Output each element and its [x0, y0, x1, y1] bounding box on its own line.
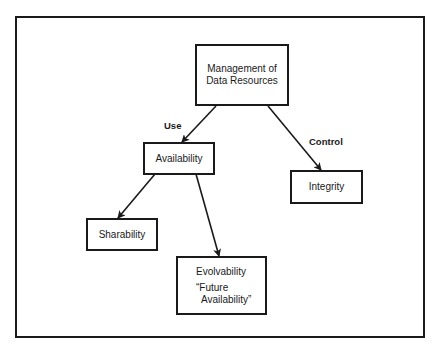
- node-label: Evolvability: [196, 266, 246, 278]
- node-sharability: Sharability: [86, 218, 158, 251]
- edge-label-use: Use: [164, 120, 181, 131]
- arrow-to-evolvability: [196, 174, 219, 256]
- node-sublabel: “Future: [196, 282, 228, 294]
- node-availability: Availability: [143, 142, 215, 175]
- node-label: Management of: [207, 63, 277, 75]
- arrow-use: [182, 106, 216, 142]
- node-management-of-data-resources: Management of Data Resources: [195, 44, 289, 106]
- node-label: Availability: [155, 153, 202, 165]
- edge-label-control: Control: [309, 136, 343, 147]
- node-label: Integrity: [309, 181, 345, 193]
- node-label: Data Resources: [206, 75, 278, 87]
- node-sublabel: Availability”: [196, 294, 251, 306]
- node-integrity: Integrity: [290, 170, 363, 204]
- node-label: Sharability: [99, 229, 146, 241]
- node-evolvability: Evolvability “Future Availability”: [176, 256, 267, 315]
- arrow-to-sharability: [118, 174, 155, 218]
